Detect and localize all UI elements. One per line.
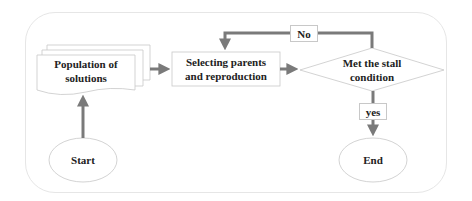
- population-label-line2: solutions: [37, 71, 135, 85]
- decision-label-line2: condition: [322, 70, 422, 84]
- selecting-label-line1: Selecting parents: [172, 55, 280, 69]
- flowchart-canvas: [0, 0, 472, 201]
- end-label: End: [339, 153, 407, 167]
- population-label-line1: Population of: [37, 57, 135, 71]
- decision-label: Met the stall condition: [322, 56, 422, 84]
- yes-edge-label: yes: [359, 103, 387, 120]
- decision-label-line1: Met the stall: [322, 56, 422, 70]
- selecting-label-line2: and reproduction: [172, 69, 280, 83]
- start-label: Start: [49, 153, 117, 167]
- no-edge-label: No: [290, 25, 318, 42]
- population-label: Population of solutions: [37, 57, 135, 85]
- selecting-label: Selecting parents and reproduction: [172, 55, 280, 83]
